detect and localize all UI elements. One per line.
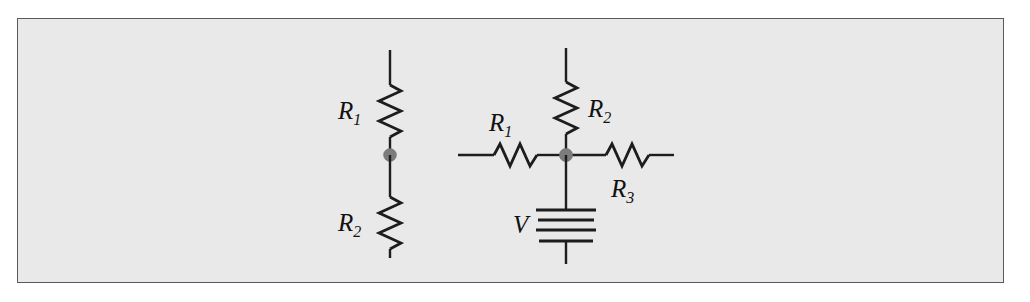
- right-r2-label: R2: [587, 95, 611, 126]
- figure-root: R1 R2: [0, 0, 1030, 302]
- right-r3-label-subscript: 3: [625, 189, 634, 206]
- circuit-figure-panel: R1 R2: [17, 18, 1004, 283]
- left-r1-resistor-zigzag: [379, 85, 401, 137]
- left-r1-label-subscript: 1: [353, 111, 361, 128]
- left-circuit-group: R1 R2: [337, 50, 401, 258]
- left-r2-resistor-zigzag: [379, 197, 401, 249]
- voltage-source-battery-symbol: [536, 210, 596, 241]
- left-r1-label: R1: [337, 97, 361, 128]
- right-r1-resistor-zigzag: [494, 144, 537, 166]
- left-r2-label: R2: [337, 209, 361, 240]
- right-r3-resistor-zigzag: [606, 144, 649, 166]
- right-circuit-group: R2 R1 R3 V: [458, 48, 674, 264]
- right-r3-label: R3: [610, 175, 634, 206]
- right-r1-label-subscript: 1: [504, 123, 512, 140]
- right-r2-label-subscript: 2: [603, 109, 611, 126]
- right-r2-resistor-zigzag: [555, 82, 577, 134]
- right-r1-label: R1: [488, 109, 512, 140]
- left-r2-label-subscript: 2: [353, 223, 361, 240]
- voltage-source-label: V: [513, 211, 531, 238]
- circuit-diagram-svg: R1 R2: [18, 19, 1004, 283]
